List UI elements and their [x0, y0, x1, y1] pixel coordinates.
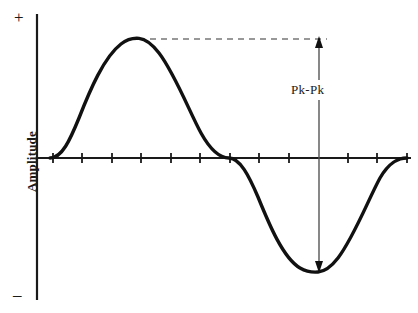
plot-canvas — [0, 0, 418, 313]
sine-wave-curve — [50, 38, 407, 272]
y-axis-label-amplitude: Amplitude — [25, 107, 38, 217]
y-axis-negative-sign: – — [13, 286, 22, 303]
y-axis-positive-sign: + — [14, 9, 24, 26]
pk-pk-arrowhead-up — [315, 36, 323, 48]
pk-pk-measurement-arrow — [315, 36, 323, 273]
pk-pk-label: Pk-Pk — [291, 83, 324, 96]
sine-wave-diagram: + – Amplitude Pk-Pk — [0, 0, 418, 313]
